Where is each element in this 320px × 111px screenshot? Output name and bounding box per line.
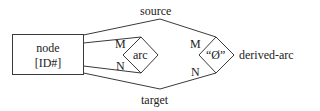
arc-cardinality-m: M [115,38,126,50]
node-id-label: [ID#] [26,57,70,69]
target-label: target [141,94,168,106]
arc-label: arc [133,49,148,61]
arc-n-line [84,66,142,73]
derived-arc-symbol: “Ø” [206,49,225,61]
arc-m-line [84,37,142,43]
derived-cardinality-n: N [191,66,200,78]
arc-cardinality-n: N [116,60,125,72]
node-label: node [26,42,70,54]
source-relationship-line [84,19,217,37]
source-label: source [140,5,171,17]
derived-arc-label: derived-arc [239,49,294,61]
derived-cardinality-m: M [190,38,201,50]
